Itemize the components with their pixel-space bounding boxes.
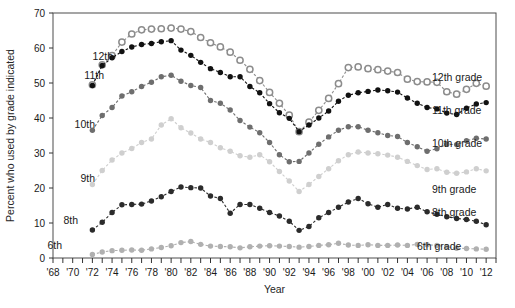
data-point bbox=[277, 243, 282, 248]
data-point bbox=[444, 89, 450, 95]
data-point bbox=[375, 87, 380, 92]
data-point bbox=[454, 91, 460, 97]
data-point bbox=[139, 27, 145, 33]
data-point bbox=[237, 57, 243, 63]
data-point bbox=[149, 136, 154, 141]
data-point bbox=[119, 93, 124, 98]
data-point bbox=[277, 152, 282, 157]
data-point bbox=[198, 85, 203, 90]
data-point bbox=[178, 240, 183, 245]
x-tick-label-2004: '04 bbox=[401, 267, 414, 278]
data-point bbox=[208, 193, 213, 198]
data-point bbox=[247, 202, 252, 207]
data-point bbox=[395, 89, 400, 94]
data-point bbox=[208, 98, 213, 103]
data-point bbox=[316, 107, 322, 113]
data-point bbox=[483, 168, 488, 173]
data-point bbox=[267, 159, 272, 164]
data-point bbox=[336, 205, 341, 210]
y-tick-label-10: 10 bbox=[34, 218, 46, 229]
data-point bbox=[277, 213, 282, 218]
data-point bbox=[149, 246, 154, 251]
data-point bbox=[404, 76, 410, 82]
data-point bbox=[326, 210, 331, 215]
data-point bbox=[267, 101, 272, 106]
data-point bbox=[316, 174, 321, 179]
x-tick-label-1994: '94 bbox=[302, 267, 315, 278]
data-point bbox=[355, 90, 360, 95]
data-point bbox=[139, 140, 144, 145]
data-point bbox=[109, 105, 114, 110]
data-point bbox=[188, 83, 193, 88]
data-point bbox=[277, 169, 282, 174]
data-point bbox=[316, 243, 321, 248]
y-tick-label-70: 70 bbox=[34, 8, 46, 19]
inline-label-11th: 11th bbox=[84, 69, 104, 81]
data-point bbox=[159, 245, 164, 250]
data-point bbox=[326, 166, 331, 171]
data-point bbox=[306, 182, 311, 187]
data-point bbox=[326, 108, 331, 113]
data-point bbox=[474, 219, 479, 224]
data-point bbox=[306, 244, 311, 249]
data-point bbox=[198, 185, 203, 190]
inline-label-8th: 8th bbox=[63, 214, 78, 226]
data-point bbox=[365, 89, 370, 94]
x-tick-label-1996: '96 bbox=[322, 267, 335, 278]
data-point bbox=[316, 142, 321, 147]
data-point bbox=[276, 100, 282, 106]
x-tick-label-2008: '08 bbox=[440, 267, 453, 278]
data-point bbox=[90, 252, 95, 257]
data-point bbox=[365, 128, 370, 133]
data-point bbox=[345, 65, 351, 71]
data-point bbox=[168, 73, 173, 78]
inline-label-12th: 12th bbox=[93, 50, 114, 62]
data-point bbox=[306, 224, 311, 229]
data-point bbox=[257, 206, 262, 211]
data-point bbox=[365, 242, 370, 247]
data-point bbox=[405, 95, 410, 100]
data-point bbox=[148, 26, 154, 32]
data-point bbox=[287, 244, 292, 249]
data-point bbox=[405, 243, 410, 248]
inline-label-6th: 6th bbox=[47, 239, 62, 251]
data-point bbox=[463, 86, 469, 92]
legend-label-8th-grade: 8th grade bbox=[432, 206, 477, 218]
x-tick-label-2010: '10 bbox=[460, 267, 473, 278]
data-point bbox=[346, 124, 351, 129]
data-point bbox=[306, 122, 311, 127]
x-tick-label-1998: '98 bbox=[342, 267, 355, 278]
data-point bbox=[385, 68, 391, 74]
data-point bbox=[464, 246, 469, 251]
data-point bbox=[355, 124, 360, 129]
data-point bbox=[296, 129, 301, 134]
data-point bbox=[335, 81, 341, 87]
data-point bbox=[228, 74, 233, 79]
data-point bbox=[119, 248, 124, 253]
data-point bbox=[346, 93, 351, 98]
data-point bbox=[326, 95, 332, 101]
legend-label-10th-grade: 10th grade bbox=[432, 137, 482, 149]
data-point bbox=[129, 146, 134, 151]
x-tick-label-1990: '90 bbox=[263, 267, 276, 278]
legend-label-6th-grade: 6th grade bbox=[417, 240, 462, 252]
data-point bbox=[277, 110, 282, 115]
x-tick-label-1982: '82 bbox=[184, 267, 197, 278]
inline-label-9th: 9th bbox=[80, 172, 95, 184]
data-point bbox=[385, 133, 390, 138]
data-point bbox=[316, 115, 321, 120]
data-point bbox=[395, 206, 400, 211]
y-tick-label-30: 30 bbox=[34, 148, 46, 159]
data-point bbox=[287, 116, 292, 121]
data-point bbox=[405, 206, 410, 211]
data-point bbox=[375, 67, 381, 73]
data-point bbox=[237, 245, 242, 250]
data-point bbox=[415, 101, 420, 106]
data-point bbox=[375, 130, 380, 135]
data-point bbox=[355, 64, 361, 70]
legend-label-9th-grade: 9th grade bbox=[432, 183, 477, 195]
data-point bbox=[385, 202, 390, 207]
data-point bbox=[218, 196, 223, 201]
data-point bbox=[129, 44, 134, 49]
y-tick-label-60: 60 bbox=[34, 43, 46, 54]
